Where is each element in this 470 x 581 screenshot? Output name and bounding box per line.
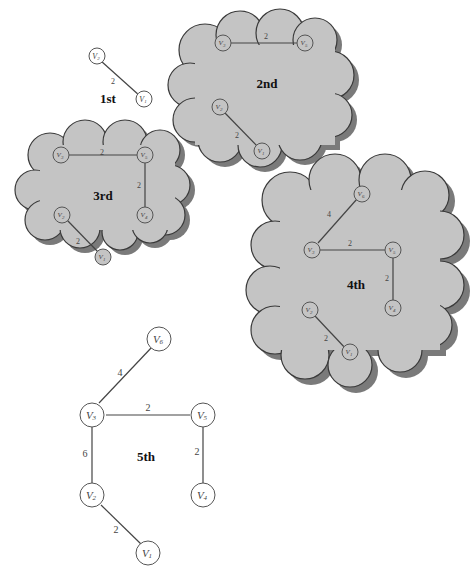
svg-text:2: 2 <box>385 274 389 283</box>
svg-text:2: 2 <box>264 32 268 41</box>
stage-5-graph: 4 2 6 2 2 V6 V3 V5 V2 V4 V1 5th <box>80 327 215 565</box>
stage-label-2nd: 2nd <box>257 76 279 91</box>
svg-text:2: 2 <box>76 237 80 246</box>
mst-diagram: 2 V2 V1 1st 2 2 V3 V5 V2 V1 2nd 2 2 2 V3… <box>0 0 470 581</box>
svg-text:2: 2 <box>195 446 200 457</box>
edge-weight: 2 <box>111 77 115 86</box>
svg-text:2: 2 <box>114 524 119 535</box>
stage-label-5th: 5th <box>137 449 156 464</box>
svg-text:2: 2 <box>146 402 151 413</box>
svg-text:4: 4 <box>327 210 331 219</box>
stage-label-4th: 4th <box>347 277 366 292</box>
stage-label-1st: 1st <box>100 91 117 106</box>
svg-text:2: 2 <box>324 334 328 343</box>
svg-text:6: 6 <box>83 448 88 459</box>
svg-text:4: 4 <box>118 367 123 378</box>
svg-text:2: 2 <box>137 181 141 190</box>
stage-label-3rd: 3rd <box>93 188 113 203</box>
stage-1-graph: 2 V2 V1 1st <box>89 48 152 107</box>
svg-text:2: 2 <box>348 239 352 248</box>
svg-text:2: 2 <box>235 131 239 140</box>
svg-text:2: 2 <box>100 148 104 157</box>
